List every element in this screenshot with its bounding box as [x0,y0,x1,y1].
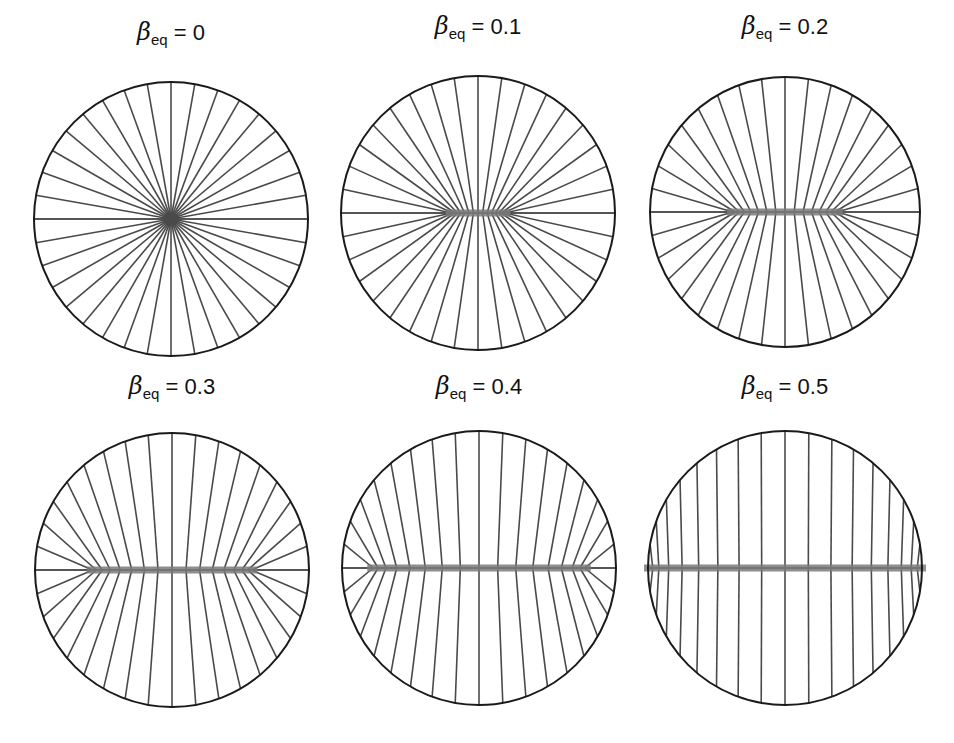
field-line [871,568,873,673]
field-line [186,570,196,705]
field-line [503,166,607,213]
field-line [803,212,831,339]
equals-sign: = [174,20,187,45]
field-line [104,570,132,689]
field-line [251,546,307,570]
field-line [548,568,567,673]
field-line [248,523,301,570]
field-line [533,568,548,687]
field-line [852,449,853,568]
field-line [242,502,291,571]
field-line [343,189,451,213]
field-line [495,108,566,213]
field-line [186,435,196,570]
field-line [390,213,461,318]
panel-1 [341,76,615,350]
field-line [410,213,465,332]
beta-symbol: β [742,372,756,400]
beta-value: 0.3 [185,374,216,399]
field-line [390,108,461,213]
field-line [831,439,832,568]
field-line [871,463,873,568]
beta-symbol: β [436,372,450,400]
field-line [533,449,548,568]
field-line [432,568,442,697]
field-line [811,95,852,212]
field-line [200,441,219,570]
field-line [697,568,699,673]
field-line [718,212,759,329]
field-line [431,84,469,213]
field-line [901,568,903,637]
field-line [901,500,903,569]
panel-title-3: βeq = 0.3 [129,372,215,402]
field-line [739,212,767,339]
field-line [487,84,525,213]
equatorial-band [367,565,591,572]
beta-value: 0.4 [492,374,523,399]
field-line [67,570,110,658]
field-line [242,570,291,639]
field-line [837,212,918,235]
field-line [234,482,277,570]
field-line [148,570,158,705]
equals-sign: = [779,14,792,39]
field-line [67,482,110,570]
field-line [680,568,682,656]
field-line [483,78,502,213]
field-line [794,79,808,212]
field-line [561,568,584,656]
field-line [483,213,502,348]
panel-5 [644,431,926,705]
field-line [697,463,699,568]
field-line [503,213,607,260]
panel-title-4: βeq = 0.4 [436,372,522,402]
equatorial-band [87,567,258,574]
field-line [487,213,525,342]
field-line [410,94,465,213]
field-line [516,439,526,568]
equatorial-band [727,209,843,216]
field-line [43,570,96,617]
field-line [652,212,733,235]
field-line [411,449,426,568]
field-line [548,463,567,568]
field-line [248,570,301,617]
field-line [762,79,776,212]
field-line [391,568,410,673]
field-line [454,213,473,348]
field-line [911,521,914,568]
subscript: eq [756,385,773,402]
field-line [561,480,584,568]
field-line [666,500,668,569]
equals-sign: = [472,14,485,39]
field-line [739,85,767,212]
field-line [234,570,277,658]
panel-3 [35,433,309,707]
field-line [37,570,93,594]
field-line [43,523,96,570]
field-line [344,544,373,568]
beta-value: 0.2 [798,14,829,39]
field-line [104,451,132,570]
field-line [803,85,831,212]
beta-symbol: β [435,12,449,40]
equatorial-band [446,210,511,217]
field-line [349,213,453,260]
field-line [391,463,410,568]
field-line [491,213,546,332]
field-line [53,570,102,639]
equals-sign: = [779,374,792,399]
subscript: eq [756,25,773,42]
field-line [585,544,614,568]
field-line [148,435,158,570]
panel-title-0: βeq = 0 [137,18,205,48]
field-line [811,212,852,329]
beta-value: 0.5 [798,374,829,399]
subscript: eq [450,385,467,402]
field-line [585,568,614,592]
panel-2 [650,77,920,347]
panel-0 [34,82,308,356]
subscript: eq [449,25,466,42]
field-line [837,189,918,212]
